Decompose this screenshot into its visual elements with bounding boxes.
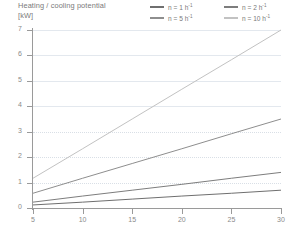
x-axis-tick-label: 25	[218, 216, 244, 223]
y-axis-tick-label: 6	[0, 50, 22, 57]
plot-area	[33, 30, 281, 208]
legend-exponent-n5: -1	[188, 13, 192, 18]
y-axis-tick-label: 1	[0, 178, 22, 185]
page-title: Heating / cooling potential [kW]	[18, 1, 138, 20]
series-lines	[33, 30, 281, 208]
y-axis-tick-label: 0	[0, 203, 22, 210]
plot-wrapper: 01234567 51015202530 Temperature differe…	[0, 27, 294, 217]
legend-label-n1: n = 1 h-1	[168, 4, 192, 11]
x-axis-tick	[182, 209, 183, 214]
legend-exponent-n1: -1	[188, 2, 192, 7]
y-axis-tick-label: 5	[0, 76, 22, 83]
x-axis-tick	[231, 209, 232, 214]
y-axis-tick-label: 3	[0, 127, 22, 134]
legend-swatch-n1	[150, 6, 164, 7]
x-axis-line	[32, 208, 282, 209]
legend-swatch-n5	[150, 17, 164, 18]
chart-header: Heating / cooling potential [kW] n = 1 h…	[0, 0, 294, 27]
x-axis-tick-label: 5	[20, 216, 46, 223]
legend-item-n5: n = 5 h-1	[150, 13, 192, 23]
legend-item-n1: n = 1 h-1	[150, 2, 192, 12]
legend-exponent-n10: -1	[266, 13, 270, 18]
x-axis-tick	[83, 209, 84, 214]
x-axis-tick-label: 30	[268, 216, 294, 223]
x-axis-tick	[132, 209, 133, 214]
legend-item-n2: n = 2 h-1	[224, 2, 266, 12]
x-axis-tick-label: 10	[70, 216, 96, 223]
x-axis-tick	[33, 209, 34, 214]
legend-item-n10: n = 10 h-1	[224, 13, 270, 23]
legend-exponent-n2: -1	[262, 2, 266, 7]
legend-swatch-n10	[224, 17, 238, 18]
x-axis-tick-label: 20	[169, 216, 195, 223]
legend: n = 1 h-1 n = 2 h-1 n = 5 h-1 n = 10 h-1	[150, 1, 294, 25]
legend-label-n10: n = 10 h-1	[242, 15, 270, 22]
legend-swatch-n2	[224, 6, 238, 7]
legend-label-n2: n = 2 h-1	[242, 4, 266, 11]
y-axis-tick-label: 2	[0, 152, 22, 159]
x-axis-tick	[281, 209, 282, 214]
y-axis-tick-label: 7	[0, 25, 22, 32]
y-axis-tick-label: 4	[0, 101, 22, 108]
x-axis-tick-label: 15	[119, 216, 145, 223]
chart-title-line2: [kW]	[18, 11, 138, 21]
chart-title-line1: Heating / cooling potential	[18, 1, 106, 10]
legend-label-n5: n = 5 h-1	[168, 15, 192, 22]
